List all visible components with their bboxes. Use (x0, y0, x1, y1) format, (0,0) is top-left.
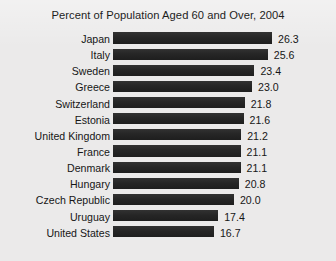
bar-row: Japan26.3 (0, 31, 336, 47)
bar-value-label: 16.7 (220, 225, 241, 241)
bar-row: United Kingdom21.2 (0, 128, 336, 144)
bar-category-label: United States (0, 225, 110, 241)
bar-value-label: 21.8 (251, 96, 272, 112)
bar-row: Greece23.0 (0, 79, 336, 95)
bar (113, 65, 254, 76)
bar-category-label: Uruguay (0, 209, 110, 225)
bar-category-label: Switzerland (0, 96, 110, 112)
bar-value-label: 21.1 (247, 160, 268, 176)
bar-track: 21.1 (113, 160, 336, 176)
bar-track: 23.0 (113, 79, 336, 95)
bar-category-label: Czech Republic (0, 192, 110, 208)
bar-value-label: 21.1 (247, 144, 268, 160)
bar (113, 162, 241, 173)
bar-category-label: United Kingdom (0, 128, 110, 144)
bar-track: 17.4 (113, 209, 336, 225)
bar-row: Estonia21.6 (0, 112, 336, 128)
bar-category-label: Estonia (0, 112, 110, 128)
bar (113, 210, 218, 221)
chart-plot-area: Japan26.3Italy25.6Sweden23.4Greece23.0Sw… (0, 31, 336, 241)
bar (113, 194, 234, 205)
bar (113, 97, 245, 108)
bar-category-label: France (0, 144, 110, 160)
bar-chart-figure: Percent of Population Aged 60 and Over, … (0, 0, 336, 261)
bar (113, 49, 268, 60)
bar-track: 21.6 (113, 112, 336, 128)
bar-track: 23.4 (113, 63, 336, 79)
bar-value-label: 20.0 (240, 192, 261, 208)
chart-title: Percent of Population Aged 60 and Over, … (0, 9, 336, 21)
bar-row: France21.1 (0, 144, 336, 160)
bar-track: 21.8 (113, 96, 336, 112)
bar-category-label: Japan (0, 31, 110, 47)
bar-category-label: Hungary (0, 176, 110, 192)
bar (113, 129, 241, 140)
bar-track: 20.8 (113, 176, 336, 192)
bar-value-label: 21.6 (250, 112, 271, 128)
bar-row: Uruguay17.4 (0, 209, 336, 225)
bar (113, 178, 239, 189)
bar-category-label: Sweden (0, 63, 110, 79)
bar-category-label: Denmark (0, 160, 110, 176)
bar-category-label: Italy (0, 47, 110, 63)
bar-value-label: 23.4 (260, 63, 281, 79)
bar (113, 113, 244, 124)
bar-row: United States16.7 (0, 225, 336, 241)
bar-track: 16.7 (113, 225, 336, 241)
bar (113, 32, 272, 43)
bar-category-label: Greece (0, 79, 110, 95)
bar-value-label: 26.3 (278, 31, 299, 47)
bar-track: 26.3 (113, 31, 336, 47)
bar-value-label: 21.2 (247, 128, 268, 144)
bar-row: Switzerland21.8 (0, 96, 336, 112)
bar (113, 81, 252, 92)
bar-track: 21.1 (113, 144, 336, 160)
bar-track: 21.2 (113, 128, 336, 144)
bar-value-label: 25.6 (274, 47, 295, 63)
bar-track: 20.0 (113, 192, 336, 208)
bar (113, 226, 214, 237)
bar (113, 145, 241, 156)
bar-row: Denmark21.1 (0, 160, 336, 176)
bar-value-label: 20.8 (245, 176, 266, 192)
bar-row: Hungary20.8 (0, 176, 336, 192)
bar-value-label: 17.4 (224, 209, 245, 225)
bar-row: Czech Republic20.0 (0, 192, 336, 208)
bar-row: Italy25.6 (0, 47, 336, 63)
bar-track: 25.6 (113, 47, 336, 63)
bar-row: Sweden23.4 (0, 63, 336, 79)
bar-value-label: 23.0 (258, 79, 279, 95)
